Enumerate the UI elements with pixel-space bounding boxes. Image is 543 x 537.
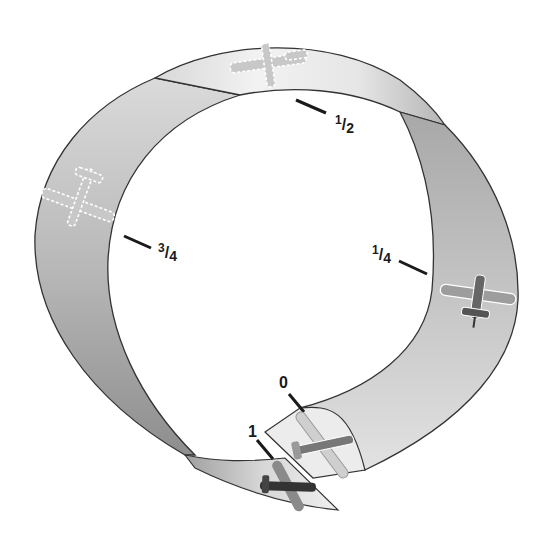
- tick-zero: [289, 394, 304, 412]
- label-one: 1: [248, 424, 257, 440]
- tick-half: [296, 100, 326, 113]
- tick-quarter: [399, 261, 427, 274]
- label-quarter: 1/4: [372, 244, 391, 265]
- loop-ribbon-graphic: [0, 0, 543, 537]
- tick-one: [257, 440, 273, 459]
- tick-three-quarter: [124, 236, 151, 248]
- loop-diagram: 1/2 3/4 1/4 0 1: [0, 0, 543, 537]
- label-half: 1/2: [335, 114, 354, 135]
- label-three-quarter: 3/4: [158, 242, 177, 263]
- ribbon-left-segment: [35, 78, 240, 455]
- label-zero: 0: [279, 375, 288, 391]
